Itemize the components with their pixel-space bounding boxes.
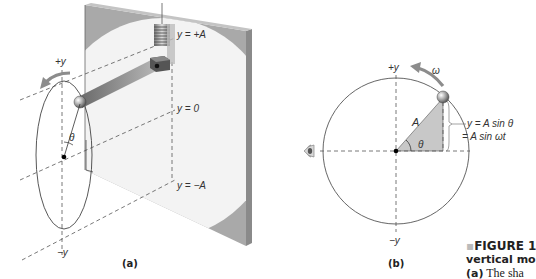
level-top-label: y = +A bbox=[176, 29, 206, 40]
caption-title: ▪FIGURE 1 bbox=[466, 239, 536, 253]
ball-a bbox=[74, 96, 86, 108]
caption-line-3-text: The sha bbox=[483, 266, 523, 279]
panel-b: +y −y ω A θ y = A sin θ = A sin ωt (b) bbox=[304, 62, 514, 269]
ball-b bbox=[437, 91, 449, 103]
block bbox=[150, 56, 170, 72]
theta-label-a: θ bbox=[69, 132, 75, 143]
plus-y-label-a: +y bbox=[55, 56, 67, 67]
eye-icon bbox=[304, 145, 314, 157]
level-bottom-label: y = −A bbox=[176, 180, 206, 191]
equation-line-2: = A sin ωt bbox=[462, 131, 507, 142]
plus-y-label-b: +y bbox=[388, 62, 400, 73]
caption-line-2: vertical mo bbox=[466, 253, 536, 266]
caption-line-3: (a) The sha bbox=[466, 266, 524, 279]
caption-title-text: FIGURE 1 bbox=[474, 239, 536, 253]
caption-bullet-icon: ▪ bbox=[466, 239, 474, 253]
center-dot-b bbox=[394, 149, 399, 154]
center-dot-a bbox=[62, 155, 67, 160]
omega-label: ω bbox=[432, 65, 440, 76]
theta-label-b: θ bbox=[418, 139, 424, 150]
minus-y-label-a: −y bbox=[57, 247, 69, 258]
caption-part-label: (a) bbox=[466, 267, 483, 279]
level-mid-label: y = 0 bbox=[176, 103, 199, 114]
minus-y-label-b: −y bbox=[389, 235, 401, 246]
radius-label: A bbox=[411, 116, 419, 128]
panel-a: +y −y θ y = +A y = 0 y = −A (a) bbox=[20, 3, 273, 269]
panel-a-label: (a) bbox=[122, 258, 138, 269]
panel-b-label: (b) bbox=[388, 258, 404, 269]
equation-line-1: y = A sin θ bbox=[466, 118, 514, 129]
